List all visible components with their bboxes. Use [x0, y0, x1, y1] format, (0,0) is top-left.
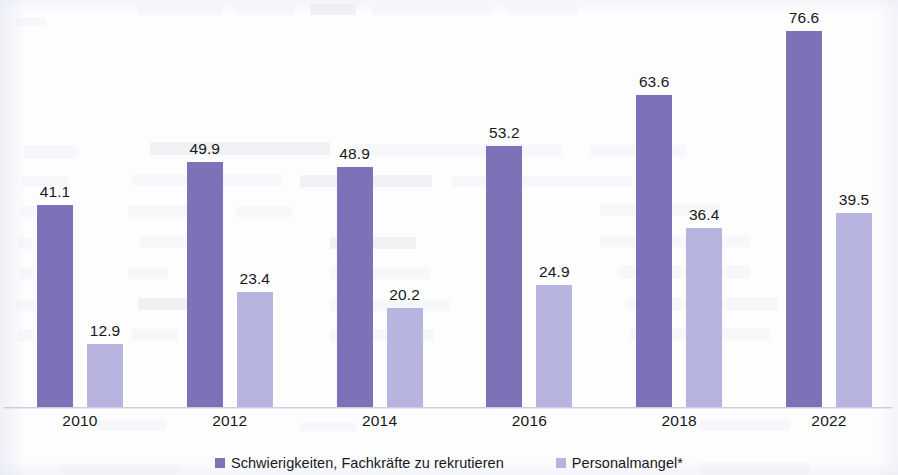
bar-2010-series2[interactable]: 12.9 — [87, 344, 123, 407]
bar-value-label: 24.9 — [539, 263, 570, 281]
bar-value-label: 49.9 — [190, 140, 221, 158]
bar-2022-series2[interactable]: 39.5 — [836, 213, 872, 407]
bar-value-label: 23.4 — [240, 270, 271, 288]
bar-2012-series2[interactable]: 23.4 — [237, 292, 273, 407]
bar-2012-series1[interactable]: 49.9 — [187, 162, 223, 407]
bar-value-label: 36.4 — [689, 206, 720, 224]
bar-value-label: 53.2 — [489, 124, 520, 142]
bar-group-2010: 41.112.9 — [37, 0, 123, 407]
x-axis-line — [4, 407, 892, 408]
legend-swatch-icon — [556, 458, 566, 468]
bar-value-label: 48.9 — [339, 145, 370, 163]
bar-group-2012: 49.923.4 — [187, 0, 273, 407]
bar-group-2022: 76.639.5 — [786, 0, 872, 407]
bar-group-2018: 63.636.4 — [636, 0, 722, 407]
bar-2014-series1[interactable]: 48.9 — [337, 167, 373, 407]
grouped-bar-chart: 41.112.949.923.448.920.253.224.963.636.4… — [0, 0, 898, 475]
x-axis-label-2018: 2018 — [662, 412, 697, 430]
x-axis-label-2016: 2016 — [512, 412, 547, 430]
bar-group-2014: 48.920.2 — [337, 0, 423, 407]
bar-group-2016: 53.224.9 — [486, 0, 572, 407]
bar-2016-series2[interactable]: 24.9 — [536, 285, 572, 407]
plot-area: 41.112.949.923.448.920.253.224.963.636.4… — [0, 0, 898, 407]
legend-label: Schwierigkeiten, Fachkräfte zu rekrutier… — [231, 455, 504, 471]
bar-2016-series1[interactable]: 53.2 — [486, 146, 522, 407]
bar-2018-series2[interactable]: 36.4 — [686, 228, 722, 407]
x-axis-label-2022: 2022 — [811, 412, 846, 430]
bar-value-label: 20.2 — [389, 286, 420, 304]
x-axis-category-labels: 201020122014201620182022 — [0, 412, 898, 442]
legend-item-1[interactable]: Schwierigkeiten, Fachkräfte zu rekrutier… — [215, 455, 504, 471]
chart-legend: Schwierigkeiten, Fachkräfte zu rekrutier… — [0, 450, 898, 475]
x-axis-label-2012: 2012 — [212, 412, 247, 430]
bar-value-label: 41.1 — [40, 183, 71, 201]
bar-2014-series2[interactable]: 20.2 — [387, 308, 423, 407]
legend-item-2[interactable]: Personalmangel* — [556, 455, 683, 471]
bar-value-label: 63.6 — [639, 73, 670, 91]
x-axis-label-2010: 2010 — [62, 412, 97, 430]
bar-value-label: 12.9 — [90, 322, 121, 340]
bar-2010-series1[interactable]: 41.1 — [37, 205, 73, 407]
x-axis-label-2014: 2014 — [362, 412, 397, 430]
bar-value-label: 76.6 — [789, 9, 820, 27]
bar-2018-series1[interactable]: 63.6 — [636, 95, 672, 407]
bar-value-label: 39.5 — [839, 191, 870, 209]
bar-2022-series1[interactable]: 76.6 — [786, 31, 822, 407]
legend-swatch-icon — [215, 458, 225, 468]
legend-label: Personalmangel* — [572, 455, 683, 471]
